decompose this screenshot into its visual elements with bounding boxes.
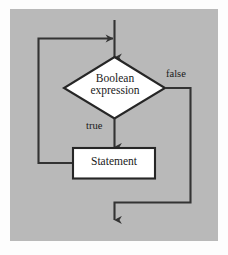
flowchart-figure: Boolean expression Statement true false [0, 0, 228, 255]
condition-label-line1: Boolean [96, 72, 134, 84]
condition-label: Boolean expression [76, 72, 154, 97]
condition-label-line2: expression [76, 84, 154, 96]
flowchart-vector-layer [0, 0, 228, 255]
true-branch-label: true [86, 120, 102, 131]
false-branch-label: false [166, 68, 186, 79]
statement-label: Statement [78, 155, 150, 167]
